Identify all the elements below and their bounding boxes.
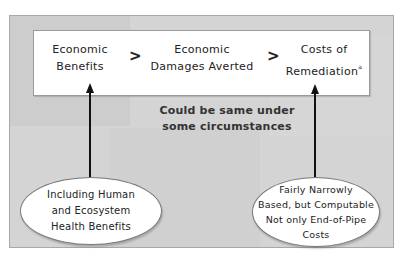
term-line: Economic [147, 41, 257, 58]
greater-than-symbol: > [129, 47, 142, 65]
term-economic-benefits: Economic Benefits [44, 41, 116, 75]
callout-health-benefits: Including Human and Ecosystem Health Ben… [20, 177, 162, 245]
callout-line: Fairly Narrowly [258, 182, 374, 197]
term-economic-damages-averted: Economic Damages Averted [147, 41, 257, 75]
term-line: Costs of [281, 41, 367, 58]
footnote-marker: a [358, 63, 362, 70]
term-line: Damages Averted [147, 58, 257, 75]
connector-line [89, 92, 91, 180]
note-line: Could be same under [152, 103, 302, 119]
term-line: Benefits [44, 58, 116, 75]
callout-line: Health Benefits [47, 219, 135, 235]
callout-line: Costs [258, 227, 374, 242]
note-line: some circumstances [152, 119, 302, 135]
circumstances-note: Could be same under some circumstances [152, 103, 302, 135]
term-line: Remediationa [281, 58, 367, 80]
callout-line: Including Human [47, 187, 135, 203]
connector-line [314, 93, 316, 180]
callout-line: Not only End-of-Pipe [258, 212, 374, 227]
term-line: Economic [44, 41, 116, 58]
greater-than-symbol: > [267, 47, 280, 65]
callout-line: Based, but Computable [258, 197, 374, 212]
callout-remediation-costs: Fairly Narrowly Based, but Computable No… [252, 177, 380, 247]
callout-line: and Ecosystem [47, 203, 135, 219]
comparison-box: Economic Benefits > Economic Damages Ave… [33, 30, 370, 96]
term-costs-of-remediation: Costs of Remediationa [281, 41, 367, 80]
term-text: Remediation [286, 65, 359, 78]
